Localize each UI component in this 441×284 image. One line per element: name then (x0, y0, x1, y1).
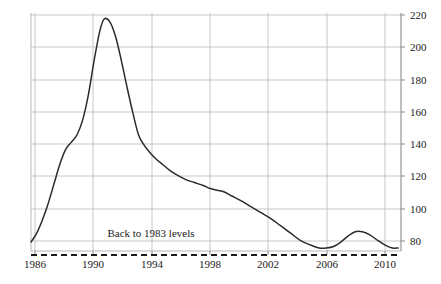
tick-marks (35, 15, 405, 255)
x-tick-label-2006: 2006 (316, 259, 338, 270)
x-tick-label-2002: 2002 (257, 259, 279, 270)
y-tick-label-80: 80 (410, 236, 421, 247)
x-tick-label-2010: 2010 (374, 259, 396, 270)
y-tick-label-200: 200 (410, 42, 427, 53)
axis-lines (31, 13, 401, 251)
x-tick-label-1986: 1986 (24, 259, 46, 270)
x-tick-label-1994: 1994 (141, 259, 163, 270)
x-tick-label-1990: 1990 (82, 259, 104, 270)
y-tick-label-120: 120 (410, 171, 427, 182)
x-tick-label-1998: 1998 (199, 259, 221, 270)
data-series (31, 18, 398, 248)
y-tick-label-160: 160 (410, 107, 427, 118)
y-tick-label-100: 100 (410, 204, 427, 215)
grid-lines (31, 13, 401, 251)
y-tick-label-140: 140 (410, 139, 427, 150)
y-tick-label-220: 220 (410, 10, 427, 21)
line-chart-canvas (0, 0, 441, 284)
chart-figure: 1986199019941998200220062010 80100120140… (0, 0, 441, 284)
y-tick-label-180: 180 (410, 75, 427, 86)
reference-line-annotation: Back to 1983 levels (107, 228, 194, 239)
series-line-index (31, 18, 398, 248)
